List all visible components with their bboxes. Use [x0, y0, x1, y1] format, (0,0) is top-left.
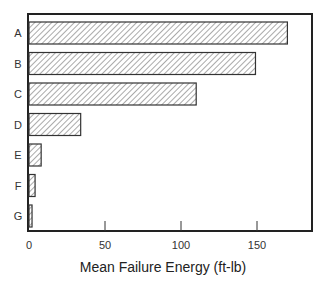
y-tick-label: F — [15, 180, 22, 192]
bar-E — [29, 144, 41, 166]
x-axis-label: Mean Failure Energy (ft-lb) — [0, 259, 326, 275]
bar-B — [29, 53, 255, 75]
bar-chart: ABCDEFG 050100150 — [0, 0, 326, 285]
bar-D — [29, 114, 81, 136]
y-tick-label: D — [14, 119, 22, 131]
y-tick-label: E — [14, 149, 21, 161]
bars-group — [29, 22, 287, 227]
x-tick-label: 50 — [99, 239, 111, 251]
bar-F — [29, 175, 35, 197]
y-tick-label: B — [14, 58, 21, 70]
x-tick-label: 100 — [172, 239, 190, 251]
y-tick-label: C — [14, 88, 22, 100]
bar-A — [29, 22, 287, 44]
y-tick-labels: ABCDEFG — [14, 27, 23, 222]
x-tick-label: 0 — [26, 239, 32, 251]
x-ticks: 050100150 — [26, 221, 266, 251]
bar-C — [29, 83, 196, 105]
x-tick-label: 150 — [248, 239, 266, 251]
y-tick-label: G — [14, 210, 23, 222]
y-tick-label: A — [14, 27, 22, 39]
bar-G — [29, 205, 32, 227]
